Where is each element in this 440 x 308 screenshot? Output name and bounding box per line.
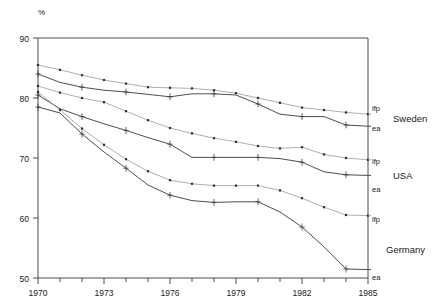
data-point-marker — [191, 87, 193, 89]
y-tick-label-90: 90 — [20, 34, 30, 44]
data-point-marker — [169, 127, 171, 129]
x-tick-label-1985: 1985 — [359, 288, 378, 298]
data-point-marker — [37, 91, 39, 93]
data-point-marker — [257, 145, 259, 147]
x-tick-label-1976: 1976 — [161, 288, 180, 298]
series-label-sweden-ea: ea — [372, 124, 381, 133]
country-label-sweden: Sweden — [393, 113, 427, 124]
data-point-marker — [59, 69, 61, 71]
data-point-marker — [103, 79, 105, 81]
data-point-marker — [301, 146, 303, 148]
data-point-marker — [81, 74, 83, 76]
data-point-marker — [59, 92, 61, 94]
data-point-marker — [323, 153, 325, 155]
data-point-marker — [81, 128, 83, 130]
y-tick-label-60: 60 — [20, 214, 30, 224]
data-point-marker — [301, 197, 303, 199]
data-point-marker — [103, 101, 105, 103]
data-point-marker — [279, 189, 281, 191]
data-point-marker — [301, 107, 303, 109]
series-label-usa-ea: ea — [372, 185, 381, 194]
series-label-sweden-lfp: lfp — [372, 104, 380, 113]
data-point-marker — [81, 97, 83, 99]
data-point-marker — [345, 111, 347, 113]
data-point-marker — [191, 132, 193, 134]
data-point-marker — [103, 144, 105, 146]
x-tick-label-1982: 1982 — [293, 288, 312, 298]
data-point-marker — [235, 92, 237, 94]
data-point-marker — [125, 158, 127, 160]
data-point-marker — [37, 64, 39, 66]
chart-figure: % 90 80 70 60 50 1970 1973 1976 1979 198… — [0, 0, 440, 308]
data-point-marker — [257, 97, 259, 99]
data-point-marker — [147, 170, 149, 172]
country-label-usa: USA — [393, 170, 413, 181]
data-point-marker — [213, 185, 215, 187]
data-point-marker — [169, 179, 171, 181]
data-point-marker — [37, 85, 39, 87]
data-point-marker — [279, 102, 281, 104]
x-tick-label-1970: 1970 — [29, 288, 48, 298]
data-point-marker — [345, 214, 347, 216]
data-point-marker — [323, 109, 325, 111]
data-point-marker — [213, 137, 215, 139]
series-label-germany-lfp: lfp — [372, 215, 380, 224]
data-point-marker — [125, 110, 127, 112]
data-point-marker — [235, 141, 237, 143]
x-tick-label-1979: 1979 — [227, 288, 246, 298]
series-label-usa-lfp: lfp — [372, 157, 380, 166]
data-point-marker — [279, 147, 281, 149]
x-tick-label-1973: 1973 — [95, 288, 114, 298]
data-point-marker — [147, 86, 149, 88]
data-point-marker — [345, 157, 347, 159]
data-point-marker — [125, 83, 127, 85]
data-point-marker — [323, 206, 325, 208]
data-point-marker — [191, 183, 193, 185]
series-label-germany-ea: ea — [372, 273, 381, 282]
data-point-marker — [59, 109, 61, 111]
chart-background — [0, 0, 440, 308]
y-tick-label-70: 70 — [20, 154, 30, 164]
country-label-germany: Germany — [386, 244, 425, 255]
line-chart-canvas: % 90 80 70 60 50 1970 1973 1976 1979 198… — [0, 0, 440, 308]
y-tick-label-50: 50 — [20, 274, 30, 284]
y-axis-unit-label: % — [38, 8, 45, 17]
data-point-marker — [169, 87, 171, 89]
y-tick-label-80: 80 — [20, 94, 30, 104]
data-point-marker — [235, 185, 237, 187]
data-point-marker — [257, 185, 259, 187]
data-point-marker — [147, 119, 149, 121]
